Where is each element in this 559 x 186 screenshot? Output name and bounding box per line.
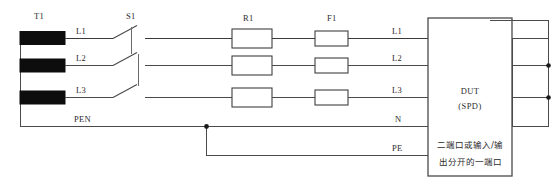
label-f1: F1 <box>327 14 337 23</box>
label-t1: T1 <box>34 12 44 21</box>
resistor-r1-l3 <box>232 88 272 107</box>
label-source-l2: L2 <box>76 54 86 63</box>
dut-subtitle: (SPD) <box>428 102 512 111</box>
fuse-f1-l3 <box>315 90 348 105</box>
label-dut-l2: L2 <box>392 54 402 63</box>
resistor-r1-l2 <box>232 56 272 75</box>
fuse-f1-l2 <box>315 58 348 73</box>
resistor-r1-l1 <box>232 29 272 48</box>
transformer-winding-l1 <box>20 32 65 45</box>
label-r1: R1 <box>243 14 254 23</box>
fuse-f1-l1 <box>315 31 348 46</box>
dut-title: DUT <box>428 87 512 96</box>
junction-dot-output-lower <box>546 95 551 100</box>
circuit-diagram: T1 S1 R1 F1 L1 L2 L3 PEN L1 L2 L3 N PE D… <box>0 0 559 186</box>
label-dut-l3: L3 <box>392 86 402 95</box>
switch-blade-l1 <box>113 26 137 39</box>
label-dut-l1: L1 <box>392 27 402 36</box>
switch-blade-l3 <box>113 85 137 98</box>
label-s1: S1 <box>126 12 136 21</box>
label-source-l1: L1 <box>76 27 86 36</box>
label-dut-n: N <box>395 115 401 124</box>
switch-blade-l2 <box>113 53 137 66</box>
label-source-pen: PEN <box>74 115 91 124</box>
junction-dot-pen-split <box>204 124 209 129</box>
dut-note-line-2: 出分开的一端口 <box>427 156 513 169</box>
label-dut-pe: PE <box>392 144 403 153</box>
transformer-winding-l3 <box>20 91 65 104</box>
dut-note-line-1: 二端口或输入/输 <box>427 139 513 152</box>
label-source-l3: L3 <box>76 86 86 95</box>
transformer-winding-l2 <box>20 59 65 72</box>
junction-dot-output-upper <box>546 63 551 68</box>
dut-box <box>428 18 512 176</box>
